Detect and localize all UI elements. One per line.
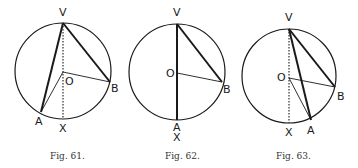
inscribed-angle-figures: V O A B X Fig. 61. V O A B X Fig. 62. V … xyxy=(0,0,358,168)
figure-62: V O A B X Fig. 62. xyxy=(129,6,231,161)
radius-oa xyxy=(41,72,63,112)
label-x: X xyxy=(173,131,181,144)
chord-vb xyxy=(177,24,222,82)
label-a: A xyxy=(307,124,315,137)
label-a: A xyxy=(35,115,43,128)
label-o: O xyxy=(166,67,175,80)
label-v: V xyxy=(173,6,181,19)
chord-va xyxy=(41,23,63,112)
figure-63: V O A B X Fig. 63. xyxy=(242,11,345,161)
caption-62: Fig. 62. xyxy=(165,151,200,161)
label-x: X xyxy=(59,122,67,135)
radius-oa xyxy=(289,78,311,120)
label-o: O xyxy=(277,71,286,84)
label-v: V xyxy=(59,6,67,19)
label-o: O xyxy=(65,75,74,88)
caption-63: Fig. 63. xyxy=(276,151,311,161)
figure-61: V O A B X Fig. 61. xyxy=(15,6,119,161)
label-b: B xyxy=(111,82,119,95)
label-v: V xyxy=(285,11,293,24)
circle-63 xyxy=(242,29,336,123)
caption-61: Fig. 61. xyxy=(50,151,85,161)
label-x: X xyxy=(285,126,293,139)
label-b: B xyxy=(337,90,345,103)
label-b: B xyxy=(223,83,231,96)
